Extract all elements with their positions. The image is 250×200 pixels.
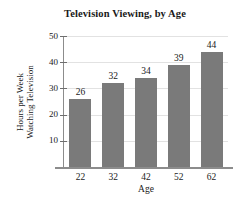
x-axis-tick-label: 42 <box>131 172 161 182</box>
x-axis-line <box>55 167 233 169</box>
y-axis-tick-label: 50 <box>38 32 58 41</box>
y-axis-tick <box>60 141 67 142</box>
bar <box>135 78 157 167</box>
y-axis-title: Hours per Week Watching Television <box>14 36 36 168</box>
x-axis-title: Age <box>64 184 228 194</box>
y-axis-tick <box>60 62 67 63</box>
bar <box>201 52 223 167</box>
plot-area <box>64 36 228 167</box>
x-axis-tick-label: 62 <box>197 172 227 182</box>
bar-value-label: 34 <box>131 66 161 76</box>
y-axis-tick-label: 20 <box>38 110 58 119</box>
y-axis-tick-label: 30 <box>38 84 58 93</box>
bar-value-label: 44 <box>197 40 227 50</box>
y-axis-title-line-2: Watching Television <box>25 65 36 139</box>
y-axis-title-line-1: Hours per Week <box>15 65 26 139</box>
bar <box>69 99 91 167</box>
bar-value-label: 39 <box>164 53 194 63</box>
chart-figure: Television Viewing, by Age Hours per Wee… <box>0 0 250 200</box>
x-axis-tick-label: 52 <box>164 172 194 182</box>
x-axis-tick-label: 32 <box>98 172 128 182</box>
y-axis-tick-label: 10 <box>38 136 58 145</box>
bar <box>168 65 190 167</box>
x-axis-tick-label: 22 <box>65 172 95 182</box>
gridline-y <box>64 36 228 37</box>
y-axis-line <box>63 36 64 167</box>
bar <box>102 83 124 167</box>
bar-value-label: 26 <box>65 87 95 97</box>
chart-title: Television Viewing, by Age <box>0 8 250 19</box>
y-axis-tick <box>60 115 67 116</box>
y-axis-tick-label: 40 <box>38 58 58 67</box>
y-axis-tick <box>60 36 67 37</box>
bar-value-label: 32 <box>98 71 128 81</box>
